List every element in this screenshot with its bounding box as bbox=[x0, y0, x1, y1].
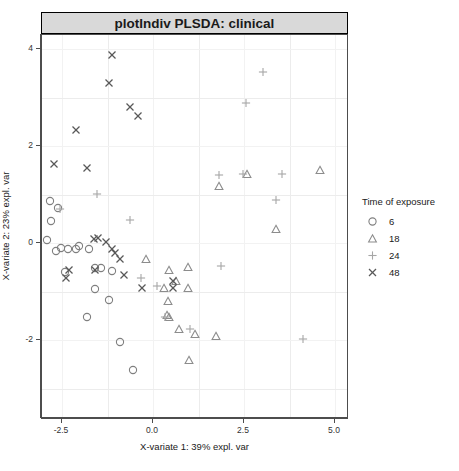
data-point-cross bbox=[65, 265, 74, 274]
data-point-cross bbox=[115, 254, 124, 263]
legend-item-6[interactable]: 6 bbox=[362, 213, 457, 230]
data-point-circle bbox=[52, 247, 61, 256]
plot-panel bbox=[41, 34, 348, 418]
data-point-cross bbox=[93, 234, 102, 243]
y-tick bbox=[36, 339, 40, 340]
y-axis-line bbox=[40, 34, 41, 418]
data-point-triangle bbox=[215, 181, 224, 190]
legend-item-24[interactable]: 24 bbox=[362, 247, 457, 264]
legend-item-label: 24 bbox=[389, 250, 400, 261]
data-point-plus bbox=[258, 68, 267, 77]
x-tick bbox=[334, 419, 335, 423]
data-point-plus bbox=[137, 273, 146, 282]
data-point-plus bbox=[126, 215, 135, 224]
data-point-triangle bbox=[171, 276, 180, 285]
data-point-plus bbox=[153, 281, 162, 290]
data-point-cross bbox=[126, 103, 135, 112]
grid-line-horizontal bbox=[42, 292, 347, 293]
panel-strip: plotIndiv PLSDA: clinical bbox=[41, 12, 348, 34]
grid-line-horizontal bbox=[42, 340, 347, 341]
data-point-triangle bbox=[272, 225, 281, 234]
grid-line-vertical bbox=[244, 35, 245, 417]
data-point-circle bbox=[84, 244, 93, 253]
x-tick-label: 0.0 bbox=[146, 425, 158, 435]
data-point-cross bbox=[133, 111, 142, 120]
y-tick-label: -2 bbox=[25, 334, 33, 344]
data-point-circle bbox=[53, 204, 62, 213]
data-point-circle bbox=[47, 216, 56, 225]
grid-line-horizontal bbox=[42, 389, 347, 390]
circle-icon bbox=[362, 214, 382, 229]
data-point-cross bbox=[83, 163, 92, 172]
data-point-cross bbox=[71, 126, 80, 135]
y-tick bbox=[36, 145, 40, 146]
data-point-triangle bbox=[175, 325, 184, 334]
grid-line-horizontal bbox=[42, 98, 347, 99]
grid-line-horizontal bbox=[42, 243, 347, 244]
data-point-circle bbox=[128, 366, 137, 375]
data-point-cross bbox=[108, 50, 117, 59]
data-point-triangle bbox=[142, 255, 151, 264]
data-point-cross bbox=[119, 270, 128, 279]
plot-root: plotIndiv PLSDA: clinical -2.50.02.55.0 … bbox=[0, 0, 459, 471]
x-tick-label: 5.0 bbox=[328, 425, 340, 435]
x-tick-label: -2.5 bbox=[54, 425, 69, 435]
legend: Time of exposure 6182448 bbox=[362, 196, 457, 281]
data-point-circle bbox=[64, 244, 73, 253]
y-axis-title: X-variate 2: 23% expl. var bbox=[0, 172, 11, 281]
legend-item-label: 18 bbox=[389, 233, 400, 244]
grid-line-horizontal bbox=[42, 49, 347, 50]
data-point-plus bbox=[217, 261, 226, 270]
data-point-triangle bbox=[315, 166, 324, 175]
x-tick bbox=[61, 419, 62, 423]
data-point-cross bbox=[108, 244, 117, 253]
grid-line-vertical bbox=[199, 35, 200, 417]
grid-line-vertical bbox=[108, 35, 109, 417]
data-point-plus bbox=[160, 312, 169, 321]
y-tick bbox=[36, 242, 40, 243]
data-point-circle bbox=[46, 197, 55, 206]
data-point-circle bbox=[96, 264, 105, 273]
legend-item-18[interactable]: 18 bbox=[362, 230, 457, 247]
legend-item-label: 48 bbox=[389, 267, 400, 278]
triangle-icon bbox=[362, 231, 382, 246]
data-point-cross bbox=[104, 78, 113, 87]
data-point-triangle bbox=[165, 312, 174, 321]
cross-icon bbox=[362, 265, 382, 280]
data-point-circle bbox=[90, 264, 99, 273]
x-tick-label: 2.5 bbox=[237, 425, 249, 435]
data-point-plus bbox=[215, 171, 224, 180]
grid-line-vertical bbox=[335, 35, 336, 417]
data-point-triangle bbox=[165, 265, 174, 274]
legend-title: Time of exposure bbox=[362, 196, 457, 207]
grid-line-vertical bbox=[153, 35, 154, 417]
plot-title: plotIndiv PLSDA: clinical bbox=[115, 16, 275, 31]
data-point-circle bbox=[108, 267, 117, 276]
data-point-cross bbox=[110, 248, 119, 257]
data-point-triangle bbox=[164, 297, 173, 306]
data-point-plus bbox=[186, 325, 195, 334]
legend-item-48[interactable]: 48 bbox=[362, 264, 457, 281]
data-point-triangle bbox=[183, 263, 192, 272]
data-point-cross bbox=[91, 265, 100, 274]
data-point-circle bbox=[71, 245, 80, 254]
data-point-plus bbox=[56, 205, 65, 214]
y-tick-label: 2 bbox=[28, 140, 33, 150]
data-point-triangle bbox=[162, 310, 171, 319]
plus-icon bbox=[362, 248, 382, 263]
grid-line-horizontal bbox=[42, 195, 347, 196]
data-point-circle bbox=[83, 312, 92, 321]
data-point-triangle bbox=[185, 356, 194, 365]
legend-item-label: 6 bbox=[389, 216, 394, 227]
data-point-cross bbox=[49, 160, 58, 169]
grid-line-vertical bbox=[62, 35, 63, 417]
data-point-plus bbox=[278, 170, 287, 179]
grid-line-vertical bbox=[290, 35, 291, 417]
data-point-plus bbox=[272, 196, 281, 205]
data-point-plus bbox=[241, 99, 250, 108]
legend-items: 6182448 bbox=[362, 213, 457, 281]
x-axis-title: X-variate 1: 39% expl. var bbox=[41, 441, 348, 452]
y-tick bbox=[36, 48, 40, 49]
data-point-cross bbox=[169, 276, 178, 285]
y-tick-label: 0 bbox=[28, 237, 33, 247]
